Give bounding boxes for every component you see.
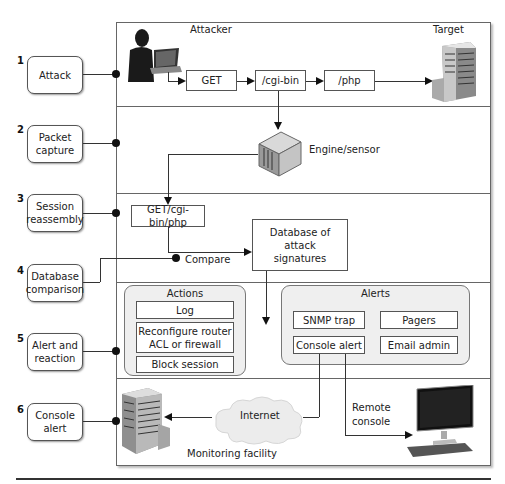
action-block-session: Block session — [136, 356, 234, 373]
alert-snmp-trap: SNMP trap — [293, 311, 365, 329]
row-divider — [116, 378, 491, 379]
alert-email-admin: Email admin — [380, 336, 458, 354]
monitoring-facility-label: Monitoring facility — [187, 448, 277, 459]
arrow-right-icon — [247, 77, 255, 85]
step-alert-and-reaction: Alert and reaction — [27, 333, 83, 371]
connector-dot — [112, 347, 120, 355]
row-divider — [116, 282, 491, 283]
alert-pagers: Pagers — [380, 311, 458, 329]
signature-database: Database of attack signatures — [252, 219, 348, 271]
step-number: 2 — [17, 124, 24, 135]
step-number: 3 — [17, 193, 24, 204]
target-building-icon — [430, 40, 480, 104]
step-number: 4 — [17, 265, 24, 276]
connector — [266, 271, 267, 318]
request-get: GET — [186, 70, 237, 91]
reassembled-request: GET/cgi-bin/php — [131, 205, 205, 227]
action-log: Log — [136, 301, 234, 319]
connector-dot — [112, 70, 120, 78]
connector — [100, 258, 176, 259]
alerts-title: Alerts — [282, 288, 469, 299]
connector — [172, 417, 212, 418]
step-number: 5 — [17, 333, 24, 344]
arrow-right-icon — [244, 248, 252, 256]
connector — [100, 258, 101, 282]
connector — [168, 154, 169, 198]
connector — [168, 227, 169, 252]
arrow-down-icon — [274, 122, 282, 130]
step-console-alert: Console alert — [27, 403, 83, 441]
engine-sensor-icon — [257, 130, 303, 178]
connector — [168, 252, 244, 253]
internet-label: Internet — [240, 410, 280, 421]
compare-dot — [172, 254, 180, 262]
row-divider — [116, 193, 491, 194]
connector — [306, 81, 316, 82]
connector — [345, 354, 346, 435]
remote-console-monitor-icon — [403, 385, 481, 457]
row-divider — [116, 106, 491, 107]
bottom-rule — [16, 478, 491, 480]
step-session-reassembly: Session reassembly — [27, 194, 83, 232]
compare-label: Compare — [185, 254, 230, 265]
arrow-down-icon — [262, 317, 270, 325]
connector — [375, 81, 425, 82]
monitoring-building-icon — [118, 384, 174, 458]
request-php: /php — [324, 70, 375, 91]
connector — [319, 354, 320, 417]
connector — [168, 81, 178, 82]
step-attack: Attack — [27, 56, 83, 94]
connector-dot — [112, 209, 120, 217]
arrow-right-icon — [316, 77, 324, 85]
actions-title: Actions — [125, 288, 245, 299]
connector — [345, 435, 405, 436]
step-database-comparison: Database comparison — [27, 264, 83, 302]
connector — [83, 282, 100, 283]
connector — [237, 81, 247, 82]
connector — [168, 72, 169, 81]
action-reconfigure: Reconfigure router ACL or firewall — [136, 322, 234, 353]
arrow-right-icon — [178, 77, 186, 85]
step-number: 1 — [17, 55, 24, 66]
step-number: 6 — [17, 404, 24, 415]
step-packet-capture: Packet capture — [27, 125, 83, 163]
engine-sensor-label: Engine/sensor — [309, 144, 380, 155]
remote-console-label: Remote console — [352, 401, 396, 429]
attacker-label: Attacker — [190, 24, 232, 35]
attacker-icon — [124, 28, 182, 84]
connector-dot — [112, 139, 120, 147]
alert-console: Console alert — [293, 336, 365, 354]
connector — [168, 154, 258, 155]
request-cgi-bin: /cgi-bin — [255, 70, 306, 91]
target-label: Target — [433, 24, 464, 35]
